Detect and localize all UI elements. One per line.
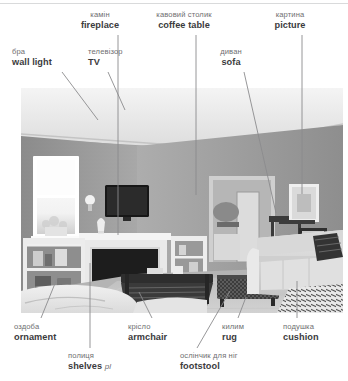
label-cushion-ukrainian: подушка (283, 323, 319, 332)
label-wall-light-ukrainian: бра (12, 48, 52, 57)
label-cushion-english-term: cushion (283, 332, 319, 342)
label-coffee-table-english: coffee table (124, 20, 244, 31)
label-shelves-plural-marker: pl (105, 362, 111, 371)
living-room-photo (21, 88, 343, 313)
label-ornament: оздобаornament (14, 323, 56, 343)
label-shelves: полицяshelves pl (68, 352, 111, 372)
label-ornament-english: ornament (14, 332, 56, 343)
label-footstool-english-term: footstool (180, 361, 220, 371)
label-picture: картинаpicture (230, 11, 348, 31)
label-rug-english: rug (222, 332, 244, 343)
label-picture-english: picture (230, 20, 348, 31)
label-picture-english-term: picture (275, 20, 306, 30)
label-wall-light-english-term: wall light (12, 57, 52, 67)
lesson-figure: браwall lightтелевізорTVкамінfireplaceка… (0, 0, 348, 381)
label-sofa: диванsofa (171, 48, 291, 68)
label-fireplace-english-term: fireplace (81, 20, 119, 30)
label-armchair-ukrainian: крісло (128, 323, 167, 332)
label-rug-english-term: rug (222, 332, 237, 342)
label-armchair-english-term: armchair (128, 332, 167, 342)
label-ornament-ukrainian: оздоба (14, 323, 56, 332)
label-shelves-english-term: shelves (68, 361, 102, 371)
label-sofa-ukrainian: диван (171, 48, 291, 57)
label-picture-ukrainian: картина (230, 11, 348, 20)
label-rug-ukrainian: килим (222, 323, 244, 332)
label-sofa-english: sofa (171, 57, 291, 68)
label-coffee-table-ukrainian: кавовий столик (124, 11, 244, 20)
label-sofa-english-term: sofa (221, 57, 240, 67)
label-tv-ukrainian: телевізор (88, 48, 123, 57)
top-divider (0, 3, 348, 4)
label-armchair-english: armchair (128, 332, 167, 343)
label-wall-light: браwall light (12, 48, 52, 68)
label-footstool-ukrainian: ослінчик для ніг (180, 352, 238, 361)
label-wall-light-english: wall light (12, 57, 52, 68)
label-coffee-table-english-term: coffee table (158, 20, 210, 30)
label-coffee-table: кавовий столикcoffee table (124, 11, 244, 31)
label-shelves-ukrainian: полиця (68, 352, 111, 361)
label-footstool-english: footstool (180, 361, 238, 372)
label-shelves-english: shelves pl (68, 361, 111, 372)
label-ornament-english-term: ornament (14, 332, 56, 342)
label-tv: телевізорTV (88, 48, 123, 68)
label-rug: килимrug (222, 323, 244, 343)
label-footstool: ослінчик для нігfootstool (180, 352, 238, 372)
label-tv-english-term: TV (88, 57, 100, 67)
label-cushion-english: cushion (283, 332, 319, 343)
label-armchair: кріслоarmchair (128, 323, 167, 343)
label-cushion: подушкаcushion (283, 323, 319, 343)
label-tv-english: TV (88, 57, 123, 68)
